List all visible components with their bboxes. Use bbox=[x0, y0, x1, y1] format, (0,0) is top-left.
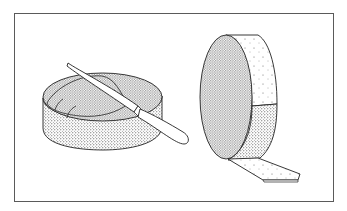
cheese-illustration bbox=[0, 0, 347, 211]
standing-cheese-wheel bbox=[200, 35, 300, 182]
